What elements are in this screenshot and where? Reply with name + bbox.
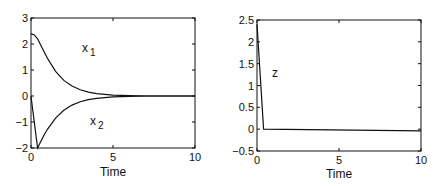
label-x1: x1 <box>82 41 96 58</box>
plot-frame <box>257 20 421 151</box>
y-axis-ticks: −2−10123 <box>15 12 195 154</box>
plot-frame <box>31 18 195 148</box>
x-axis-ticks: 0510 <box>28 18 201 163</box>
x-axis-label: Time <box>100 165 127 179</box>
y-tick-label: 1 <box>248 80 254 92</box>
figure: −2−10123 0510 x1 x2 Time −0.500.511.522.… <box>0 0 439 186</box>
y-tick-label: 2.5 <box>239 14 254 26</box>
x-tick-label: 0 <box>28 151 34 163</box>
x-tick-label: 5 <box>336 154 342 166</box>
label-z: z <box>272 66 278 80</box>
x-axis-ticks: 0510 <box>254 20 427 166</box>
series-x1 <box>31 34 195 96</box>
y-tick-label: −0.5 <box>232 145 254 157</box>
series-z <box>257 24 421 130</box>
y-tick-label: 2 <box>248 36 254 48</box>
y-tick-label: 2 <box>22 38 28 50</box>
x-axis-label: Time <box>326 167 353 181</box>
x-tick-label: 0 <box>254 154 260 166</box>
y-tick-label: 1.5 <box>239 58 254 70</box>
series-x2 <box>31 96 195 148</box>
y-tick-label: 0 <box>248 123 254 135</box>
x-tick-label: 5 <box>110 151 116 163</box>
series-lines <box>31 34 195 148</box>
y-tick-label: −2 <box>15 142 28 154</box>
y-tick-label: 0 <box>22 90 28 102</box>
plot-x1-x2: −2−10123 0510 x1 x2 Time <box>15 12 201 179</box>
x-tick-label: 10 <box>189 151 201 163</box>
label-x2: x2 <box>90 114 104 131</box>
plot-z: −0.500.511.522.5 0510 z Time <box>232 14 427 181</box>
y-tick-label: 0.5 <box>239 101 254 113</box>
series-lines <box>257 24 421 130</box>
x-tick-label: 10 <box>415 154 427 166</box>
y-tick-label: −1 <box>15 116 28 128</box>
y-tick-label: 3 <box>22 12 28 24</box>
y-tick-label: 1 <box>22 64 28 76</box>
